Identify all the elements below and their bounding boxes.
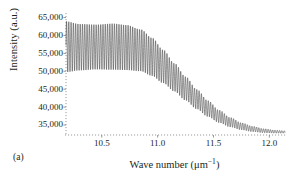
y-tick-label: 55,000 bbox=[17, 49, 63, 58]
figure-panel-a: Intensity (a.u.) 35,00040,00045,00050,00… bbox=[0, 0, 289, 180]
panel-label: (a) bbox=[13, 152, 24, 162]
y-tick-label: 35,000 bbox=[17, 120, 63, 129]
spectrum-trace bbox=[66, 21, 285, 133]
x-tick-label: 11.0 bbox=[138, 139, 178, 148]
x-tick-label: 10.5 bbox=[82, 139, 122, 148]
y-tick-label: 50,000 bbox=[17, 67, 63, 76]
plot-area bbox=[66, 14, 285, 135]
x-tick-label: 11.5 bbox=[193, 139, 233, 148]
y-tick-label: 65,000 bbox=[17, 13, 63, 22]
y-tick-label: 45,000 bbox=[17, 85, 63, 94]
y-tick-label: 40,000 bbox=[17, 103, 63, 112]
spectrum-plot bbox=[66, 14, 285, 135]
x-axis-title: Wave number (μm−1) bbox=[60, 156, 289, 170]
x-tick-label: 12.0 bbox=[249, 139, 289, 148]
y-tick-label: 60,000 bbox=[17, 31, 63, 40]
